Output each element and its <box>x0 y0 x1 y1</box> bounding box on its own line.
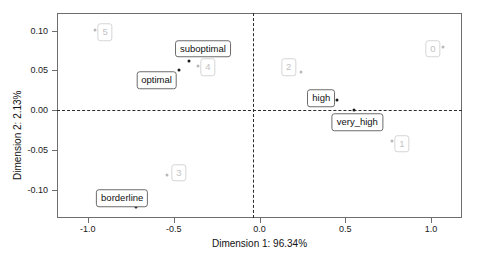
x-tick-label: -0.5 <box>166 224 182 234</box>
data-point <box>165 173 168 176</box>
y-tick-label: -0.05 <box>0 145 48 155</box>
plot-frame <box>57 13 462 218</box>
data-point <box>196 64 199 67</box>
x-tick <box>174 218 175 223</box>
point-label: high <box>307 90 335 108</box>
point-label: 0 <box>425 40 440 58</box>
y-axis-title: Dimension 2: 2.13% <box>12 91 23 181</box>
point-label: 1 <box>394 135 409 153</box>
data-point <box>390 139 393 142</box>
y-tick <box>52 70 57 71</box>
point-label: 4 <box>200 58 215 76</box>
y-tick <box>52 190 57 191</box>
point-label: borderline <box>96 189 148 207</box>
x-tick <box>260 218 261 223</box>
data-point <box>442 45 445 48</box>
zero-line-vertical <box>253 13 254 218</box>
point-label: 2 <box>281 58 296 76</box>
point-label: optimal <box>136 71 177 89</box>
data-point <box>188 59 191 62</box>
y-tick <box>52 110 57 111</box>
scatter-plot: -1.0-0.50.00.51.0 0.100.050.00-0.05-0.10… <box>0 0 480 265</box>
data-point <box>299 71 302 74</box>
x-tick-label: 0.0 <box>253 224 266 234</box>
x-tick-label: 1.0 <box>425 224 438 234</box>
y-tick-label: 0.05 <box>0 65 48 75</box>
x-tick-label: -1.0 <box>80 224 96 234</box>
point-label: 5 <box>97 23 112 41</box>
zero-line-horizontal <box>57 110 462 111</box>
data-point <box>93 28 96 31</box>
x-tick <box>88 218 89 223</box>
y-tick <box>52 150 57 151</box>
x-axis-title: Dimension 1: 96.34% <box>57 238 462 249</box>
data-point <box>335 98 338 101</box>
point-label: very_high <box>332 114 383 132</box>
x-tick-label: 0.5 <box>339 224 352 234</box>
data-point <box>177 69 180 72</box>
y-tick <box>52 31 57 32</box>
point-label: 3 <box>171 164 186 182</box>
data-point <box>352 109 355 112</box>
x-tick <box>431 218 432 223</box>
x-tick <box>345 218 346 223</box>
point-label: suboptimal <box>175 40 231 58</box>
y-tick-label: 0.00 <box>0 105 48 115</box>
y-tick-label: -0.10 <box>0 185 48 195</box>
y-tick-label: 0.10 <box>0 26 48 36</box>
